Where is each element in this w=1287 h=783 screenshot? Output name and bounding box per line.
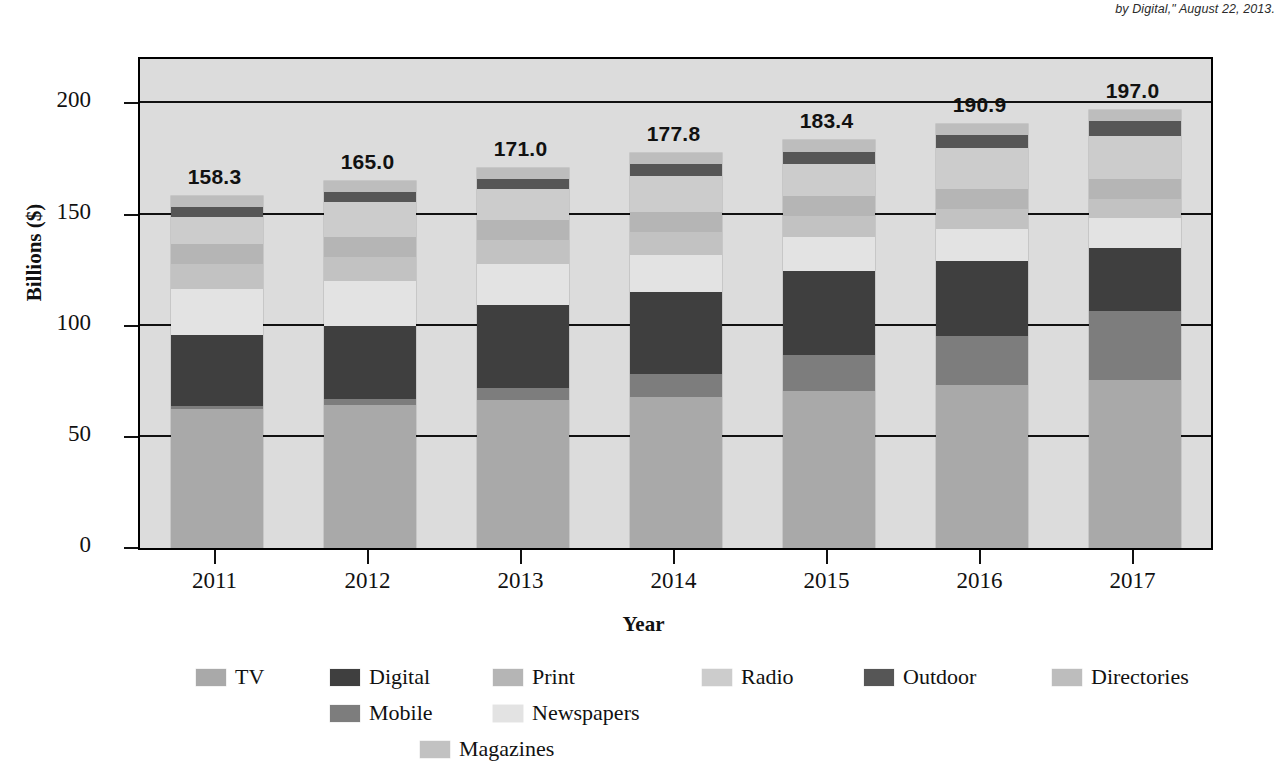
- legend-item-mobile[interactable]: Mobile: [330, 700, 433, 726]
- bar-segment-magazines: [477, 240, 569, 263]
- bar-segment-magazines: [1089, 199, 1181, 218]
- bar-segment-mobile: [783, 355, 875, 392]
- legend-swatch-directories: [1052, 669, 1082, 686]
- bar-segment-radio: [324, 202, 416, 236]
- bar-total-2013: 171.0: [441, 137, 601, 161]
- bar-segment-directories: [324, 181, 416, 192]
- legend-item-digital[interactable]: Digital: [330, 664, 430, 690]
- bar-segment-radio: [783, 164, 875, 196]
- bar-segment-radio: [1089, 136, 1181, 179]
- bar-segment-tv: [1089, 380, 1181, 548]
- legend-item-radio[interactable]: Radio: [702, 664, 794, 690]
- x-tick-label-2012: 2012: [298, 568, 438, 594]
- bar-segment-print: [630, 212, 722, 232]
- y-tick-mark-150: [124, 214, 138, 216]
- bar-segment-digital: [630, 292, 722, 373]
- x-tick-label-2017: 2017: [1063, 568, 1203, 594]
- legend-item-magazines[interactable]: Magazines: [420, 736, 554, 762]
- legend-label-tv: TV: [235, 664, 264, 690]
- bar-segment-magazines: [171, 264, 263, 290]
- legend-swatch-tv: [196, 669, 226, 686]
- x-axis-label: Year: [0, 612, 1287, 637]
- legend-swatch-radio: [702, 669, 732, 686]
- bar-total-2012: 165.0: [288, 150, 448, 174]
- bar-segment-print: [171, 244, 263, 264]
- bar-segment-mobile: [477, 388, 569, 400]
- x-tick-label-2016: 2016: [910, 568, 1050, 594]
- legend-item-newspapers[interactable]: Newspapers: [493, 700, 640, 726]
- bar-segment-radio: [630, 176, 722, 213]
- bar-segment-newspapers: [1089, 218, 1181, 248]
- bar-total-2017: 197.0: [1053, 79, 1213, 103]
- bar-segment-tv: [783, 391, 875, 548]
- bar-segment-directories: [630, 153, 722, 164]
- x-tick-label-2011: 2011: [145, 568, 285, 594]
- legend-swatch-newspapers: [493, 705, 523, 722]
- bar-2012[interactable]: [324, 181, 416, 548]
- legend-swatch-print: [493, 669, 523, 686]
- bar-segment-newspapers: [477, 264, 569, 305]
- bar-segment-print: [477, 220, 569, 240]
- bar-segment-outdoor: [630, 164, 722, 176]
- bar-segment-mobile: [936, 336, 1028, 385]
- bar-segment-directories: [783, 140, 875, 151]
- bar-segment-digital: [936, 261, 1028, 335]
- bar-segment-tv: [630, 397, 722, 548]
- bar-segment-newspapers: [936, 229, 1028, 261]
- bar-segment-radio: [171, 217, 263, 244]
- legend-item-tv[interactable]: TV: [196, 664, 264, 690]
- bar-segment-print: [1089, 179, 1181, 199]
- bar-total-2016: 190.9: [900, 93, 1060, 117]
- bar-segment-newspapers: [783, 237, 875, 271]
- bar-2011[interactable]: [171, 196, 263, 548]
- legend-swatch-digital: [330, 669, 360, 686]
- legend-label-print: Print: [532, 664, 575, 690]
- x-tick-mark-2012: [367, 550, 369, 564]
- y-tick-label-0: 0: [1, 532, 91, 558]
- bar-segment-tv: [936, 385, 1028, 548]
- bar-segment-radio: [936, 148, 1028, 189]
- y-axis-label: Billions ($): [22, 123, 47, 383]
- bar-2016[interactable]: [936, 124, 1028, 548]
- bar-segment-mobile: [630, 374, 722, 397]
- bar-2015[interactable]: [783, 140, 875, 548]
- bar-segment-print: [783, 196, 875, 216]
- y-tick-mark-100: [124, 325, 138, 327]
- legend-swatch-magazines: [420, 741, 450, 758]
- bar-segment-tv: [171, 409, 263, 548]
- legend-label-outdoor: Outdoor: [903, 664, 976, 690]
- legend-item-directories[interactable]: Directories: [1052, 664, 1189, 690]
- bar-segment-outdoor: [324, 192, 416, 202]
- bar-segment-magazines: [630, 232, 722, 254]
- legend-label-mobile: Mobile: [369, 700, 433, 726]
- legend-label-radio: Radio: [741, 664, 794, 690]
- bar-segment-outdoor: [936, 135, 1028, 148]
- source-note: by Digital," August 22, 2013.: [1115, 2, 1275, 16]
- bar-segment-print: [324, 237, 416, 257]
- x-tick-label-2014: 2014: [604, 568, 744, 594]
- bar-segment-directories: [936, 124, 1028, 135]
- legend-label-magazines: Magazines: [459, 736, 554, 762]
- bar-total-2015: 183.4: [747, 109, 907, 133]
- bar-2017[interactable]: [1089, 110, 1181, 548]
- legend-item-outdoor[interactable]: Outdoor: [864, 664, 976, 690]
- legend-item-print[interactable]: Print: [493, 664, 575, 690]
- bar-2014[interactable]: [630, 153, 722, 548]
- bar-total-2014: 177.8: [594, 122, 754, 146]
- bar-segment-digital: [783, 271, 875, 354]
- bar-segment-tv: [324, 405, 416, 548]
- legend-label-newspapers: Newspapers: [532, 700, 640, 726]
- bar-segment-digital: [477, 305, 569, 388]
- bar-segment-newspapers: [324, 281, 416, 325]
- bar-2013[interactable]: [477, 168, 569, 548]
- bar-segment-newspapers: [171, 289, 263, 335]
- bar-segment-outdoor: [171, 207, 263, 217]
- bar-segment-magazines: [324, 257, 416, 281]
- y-tick-mark-200: [124, 102, 138, 104]
- bar-segment-magazines: [783, 216, 875, 237]
- x-tick-mark-2014: [673, 550, 675, 564]
- bar-segment-outdoor: [1089, 121, 1181, 135]
- y-tick-mark-50: [124, 436, 138, 438]
- x-tick-mark-2017: [1132, 550, 1134, 564]
- bar-segment-digital: [1089, 248, 1181, 311]
